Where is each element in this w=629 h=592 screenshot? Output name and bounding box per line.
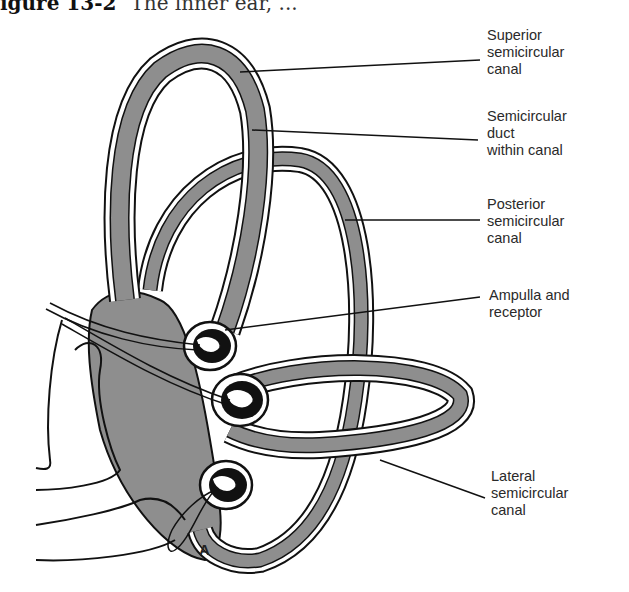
- label-line: Semicircular: [487, 108, 567, 125]
- label-superior-canal: Superior semicircular canal: [487, 27, 564, 78]
- label-line: Superior: [487, 27, 564, 44]
- label-posterior-canal: Posterior semicircular canal: [487, 196, 564, 247]
- label-lateral-canal: Lateral semicircular canal: [491, 468, 568, 519]
- label-line: semicircular: [491, 485, 568, 502]
- label-semicircular-duct: Semicircular duct within canal: [487, 108, 567, 159]
- label-line: within canal: [487, 142, 567, 159]
- label-line: canal: [487, 61, 564, 78]
- label-line: Ampulla and: [489, 287, 570, 304]
- ampulla-lateral: [212, 374, 268, 426]
- label-line: canal: [491, 502, 568, 519]
- label-line: semicircular: [487, 213, 564, 230]
- panel-letter: A: [199, 541, 210, 558]
- label-ampulla: Ampulla and receptor: [489, 287, 570, 321]
- label-line: receptor: [489, 304, 570, 321]
- label-line: duct: [487, 125, 567, 142]
- ampulla-posterior: [200, 461, 252, 509]
- label-line: semicircular: [487, 44, 564, 61]
- label-line: Posterior: [487, 196, 564, 213]
- label-line: canal: [487, 230, 564, 247]
- label-line: Lateral: [491, 468, 568, 485]
